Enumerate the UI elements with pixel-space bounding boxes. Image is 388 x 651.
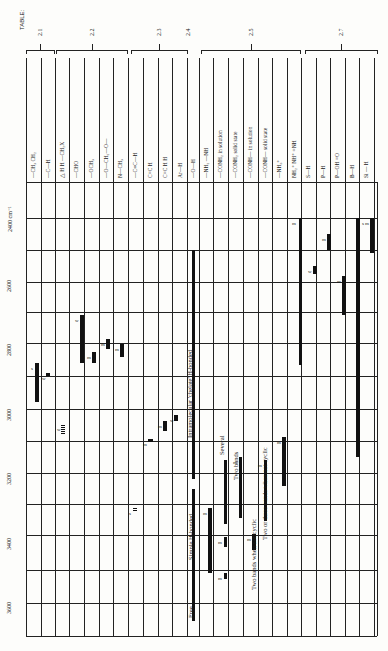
column-label: C=C H (147, 162, 153, 178)
group-bracket (201, 50, 202, 54)
group-bracket (54, 50, 55, 54)
absorption-bar (356, 218, 360, 457)
intensity-marker: m (337, 279, 341, 284)
grid-line (172, 58, 173, 636)
axis-unit-label: 2400 cm⁻¹ (6, 206, 13, 232)
column-label: —CHO (73, 161, 79, 178)
grid-line (26, 182, 377, 183)
annotation: Several (218, 436, 225, 456)
group-bracket (305, 50, 306, 54)
group-label: 2.1 (37, 29, 43, 37)
intensity-marker: m (115, 347, 119, 352)
absorption-bar (224, 537, 227, 547)
grid-line (287, 58, 288, 636)
absorption-bar (133, 508, 137, 511)
axis-tick: 3200 (6, 473, 12, 485)
grid-line (41, 58, 42, 636)
table-title: TABLE: (19, 10, 25, 30)
grid-line (26, 535, 377, 536)
grid-line (143, 58, 144, 636)
group-bracket (201, 50, 300, 51)
group-bracket (26, 50, 54, 51)
group-bracket (300, 50, 301, 54)
intensity-marker: s (31, 366, 33, 371)
column-label: —CONH— in solution (247, 127, 253, 178)
column-label: —O—CH₂—O— (103, 138, 109, 178)
axis-tick: 3400 (6, 538, 12, 550)
intensity-marker: w (170, 418, 174, 423)
group-bracket (131, 50, 187, 51)
absorption-bar (224, 460, 227, 525)
grid-line (55, 58, 56, 636)
axis-tick: 2600 (6, 280, 12, 292)
grid-line (272, 58, 273, 636)
grid-line (199, 58, 200, 636)
intensity-marker: m (101, 342, 105, 347)
absorption-bar (174, 415, 178, 421)
annotation: Simple H-bonded (187, 514, 194, 560)
grid-line (377, 182, 378, 636)
grid-line (26, 504, 377, 505)
column-label: —O—H (190, 159, 196, 178)
group-bracket (26, 50, 27, 54)
column-label: —C—H (45, 159, 51, 178)
grid-line (26, 603, 377, 604)
annotation: Intramolecular 'chelate' H-bonded (186, 350, 193, 438)
group-bracket (56, 50, 127, 51)
intensity-marker: w (42, 376, 46, 381)
group-bracket (127, 50, 128, 54)
axis-tick: 3000 (6, 409, 12, 421)
grid-line (84, 58, 85, 636)
grid-line (26, 58, 27, 636)
column-label: S—H (305, 165, 311, 178)
column-label: —CH₃ CH₂ (30, 152, 36, 178)
intensity-marker: m (277, 440, 281, 445)
annotation: Two bands (232, 452, 239, 480)
grid-line (26, 409, 377, 410)
grid-line (228, 58, 229, 636)
grid-line (128, 58, 129, 636)
column-label: P—H (320, 165, 326, 178)
grid-line (26, 218, 377, 219)
absorption-bar (370, 218, 374, 253)
group-label: 2.3 (156, 29, 162, 37)
grid-line (158, 58, 159, 636)
intensity-marker: m (218, 576, 222, 581)
absorption-bar (224, 573, 227, 579)
grid-line (26, 312, 377, 313)
column-label: △ H H —CH₂X (59, 142, 65, 178)
grid-line (99, 58, 100, 636)
grid-line (26, 636, 377, 637)
annotation: Two bands when not cyclic (250, 519, 257, 590)
grid-line (26, 441, 377, 442)
grid-line (258, 58, 259, 636)
grid-line (113, 58, 114, 636)
grid-line (213, 58, 214, 636)
column-label: —C≡C—H (132, 153, 138, 178)
grid-line (374, 58, 375, 636)
absorption-bar (61, 424, 65, 434)
group-bracket (159, 44, 160, 50)
grid-line (26, 250, 377, 251)
intensity-marker: w (57, 427, 61, 432)
intensity-marker: m (322, 237, 326, 242)
group-label: 2.2 (89, 29, 95, 37)
absorption-bar (327, 234, 331, 250)
absorption-bar (163, 421, 167, 431)
column-label: C=C H H (162, 157, 168, 178)
intensity-marker: w (308, 269, 312, 274)
column-label: —NH₃⁺ (276, 160, 282, 178)
column-label: —CONH₂ solid state (232, 131, 238, 178)
intensity-marker: m (218, 540, 222, 545)
group-bracket (56, 50, 57, 54)
grid-line (330, 58, 331, 636)
column-label: NH₂⁺ NH⁺ =NH (291, 140, 297, 178)
grid-line (26, 376, 377, 377)
group-label: 2.7 (338, 29, 344, 37)
grid-line (243, 58, 244, 636)
grid-line (26, 473, 377, 474)
intensity-marker: m (203, 511, 207, 516)
absorption-bar (282, 437, 286, 485)
intensity-marker: m (365, 221, 369, 226)
annotation: Free (187, 606, 194, 618)
